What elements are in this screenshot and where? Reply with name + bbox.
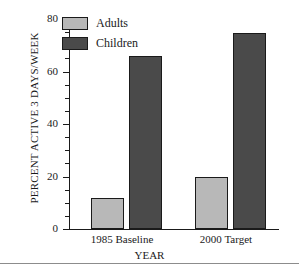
y-axis-tick-label: 80 [18,13,58,24]
y-axis-tick-label: 20 [18,171,58,182]
y-axis-tick-label: 60 [18,66,58,77]
x-axis-title: YEAR [0,249,299,261]
legend-swatch-adults [62,17,88,30]
legend-label-adults: Adults [96,17,128,29]
legend-item-adults: Adults [62,14,138,32]
x-axis-label-0: 1985 Baseline [70,233,174,245]
bar-adults-0 [91,198,124,230]
y-axis-major-tick [63,229,70,230]
x-axis-line [69,229,279,230]
legend-label-children: Children [96,37,138,49]
bar-adults-1 [195,177,228,230]
x-axis-label-1: 2000 Target [174,233,278,245]
legend-item-children: Children [62,34,138,52]
bar-children-0 [129,56,162,229]
bar-children-1 [233,33,266,229]
y-axis-tick-label: 0 [18,223,58,234]
y-axis-major-tick [63,124,70,125]
y-axis-major-tick [63,72,70,73]
y-axis-major-tick [63,177,70,178]
legend-swatch-children [62,37,88,50]
bar-chart-figure: PERCENT ACTIVE 3 DAYS/WEEK 020406080 198… [0,0,299,271]
y-axis-tick-label: 40 [18,118,58,129]
chart-legend: Adults Children [62,14,138,54]
bottom-divider [0,263,299,264]
